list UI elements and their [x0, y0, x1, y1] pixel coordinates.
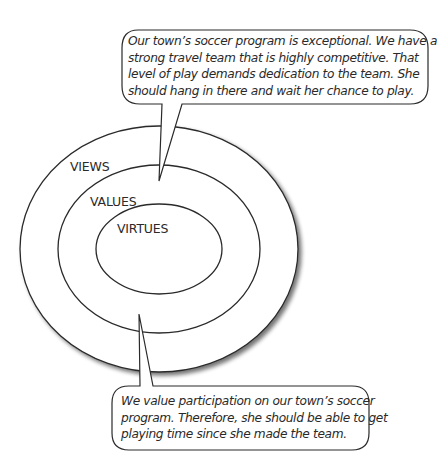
views-callout-line: strong travel team that is highly compet…: [128, 50, 437, 67]
views-label: VIEWS: [70, 159, 110, 174]
values-callout-line: playing time since she made the team.: [121, 426, 387, 443]
views-callout-line: Our town’s soccer program is exceptional…: [128, 33, 437, 50]
virtues-label: VIRTUES: [117, 221, 168, 236]
views-callout-line: should hang in there and wait her chance…: [128, 83, 437, 100]
values-callout-text: We value participation on our town’s soc…: [121, 393, 387, 443]
views-callout-line: level of play demands dedication to the …: [128, 66, 437, 83]
values-callout-line: We value participation on our town’s soc…: [121, 393, 387, 410]
values-callout-line: program. Therefore, she should be able t…: [121, 410, 387, 427]
views-callout-text: Our town’s soccer program is exceptional…: [128, 33, 437, 99]
views-ring: [20, 126, 298, 372]
values-label: VALUES: [90, 194, 137, 209]
